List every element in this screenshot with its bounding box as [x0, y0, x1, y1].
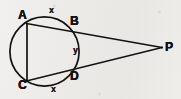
secant-C-to-P: [26, 48, 162, 81]
geometry-canvas: [0, 0, 181, 99]
secant-A-to-P: [26, 24, 162, 48]
arc-label-middle-y: y: [73, 46, 78, 55]
arc-label-top-x: x: [49, 6, 54, 15]
point-label-a: A: [18, 9, 26, 21]
point-label-p: P: [165, 41, 173, 53]
arc-label-bottom-x: x: [51, 85, 56, 94]
point-P-marker: [161, 47, 163, 49]
point-A-marker: [26, 23, 28, 25]
geometry-figure: A B C D P x y x: [0, 0, 181, 99]
point-label-b: B: [70, 15, 78, 27]
point-label-c: C: [18, 79, 26, 91]
point-label-d: D: [70, 70, 78, 82]
